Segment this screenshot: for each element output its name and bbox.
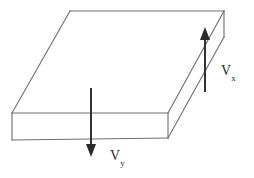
slab-top-face-fill (12, 11, 224, 113)
vy-label-subscript: y (120, 158, 125, 168)
vy-label-base: V (110, 148, 120, 163)
vx-label-base: V (221, 63, 231, 78)
vx-label-subscript: x (231, 73, 236, 83)
vx-label: Vx (221, 64, 236, 81)
vy-arrow-head-down-icon (86, 144, 96, 157)
slab-diagram-svg (0, 0, 254, 178)
figure-canvas: Vx Vy (0, 0, 254, 178)
vy-label: Vy (110, 149, 125, 166)
slab-front-face-fill (12, 113, 168, 140)
